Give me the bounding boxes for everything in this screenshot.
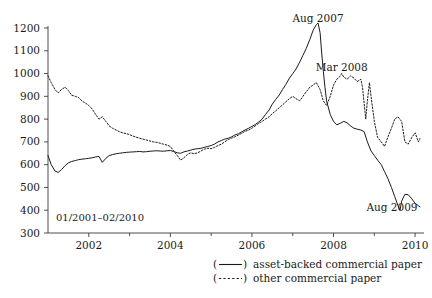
y-tick-label: 600	[20, 158, 40, 170]
x-tick-label: 2008	[320, 239, 347, 251]
y-tick-label: 400	[20, 204, 40, 216]
x-tick-label: 2010	[402, 239, 429, 251]
x-tick-label: 2002	[75, 239, 102, 251]
y-tick-label: 900	[20, 90, 40, 102]
y-tick-label: 300	[20, 227, 40, 239]
x-tick-label: 2004	[157, 239, 184, 251]
series-line-asset-backed	[48, 23, 420, 210]
legend-marker-close: )	[243, 272, 247, 284]
y-tick-label: 500	[20, 181, 40, 193]
y-tick-label: 1100	[13, 44, 40, 56]
x-tick-label: 2006	[239, 239, 266, 251]
legend-marker: (	[213, 272, 217, 284]
annotation-label: Aug 2009	[365, 201, 417, 213]
y-tick-label: 1000	[13, 67, 40, 79]
chart-figure: 3004005006007008009001000110012002002200…	[0, 0, 432, 298]
y-tick-label: 1200	[13, 22, 40, 34]
annotation-label: Mar 2008	[316, 61, 368, 73]
y-tick-label: 800	[20, 113, 40, 125]
y-tick-label: 700	[20, 135, 40, 147]
annotation-label: Aug 2007	[291, 12, 343, 24]
legend-label: other commercial paper	[253, 272, 382, 284]
series-line-other	[48, 74, 420, 161]
legend-label: asset-backed commercial paper	[253, 258, 423, 270]
commercial-paper-line-chart: 3004005006007008009001000110012002002200…	[0, 0, 432, 298]
legend-marker: (	[213, 258, 217, 270]
legend-marker-close: )	[243, 258, 247, 270]
date-range-note: 01/2001–02/2010	[56, 212, 144, 223]
